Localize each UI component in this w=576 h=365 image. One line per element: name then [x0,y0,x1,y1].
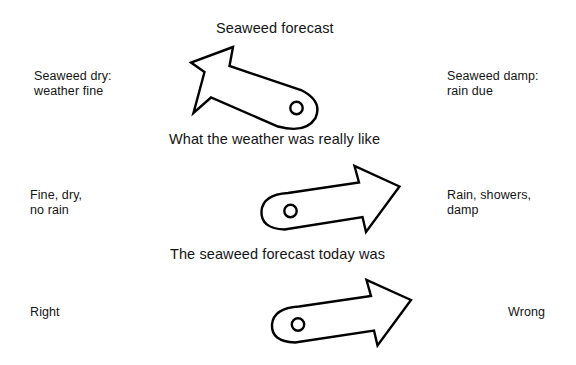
pointer-arrow-up-left [191,47,317,129]
pivot-hole-3 [292,318,304,330]
seaweed-forecast-figure: Seaweed forecast Seaweed dry: weather fi… [0,0,576,365]
pointer-arrow-up-right-1 [261,166,399,232]
pointer-arrows-layer [0,0,576,365]
pointer-arrow-up-right-2 [272,280,411,346]
pivot-hole-1 [290,102,302,114]
pivot-hole-2 [284,205,296,217]
